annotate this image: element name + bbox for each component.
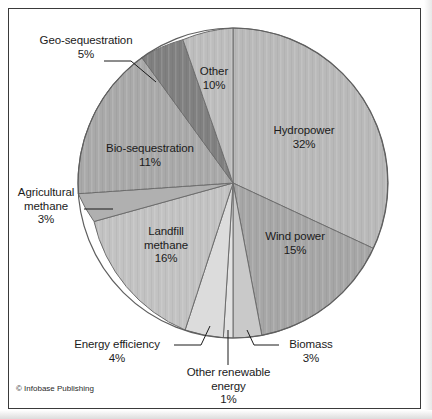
label-hydropower-name: Hydropower (274, 124, 335, 136)
label-agricultural-methane-pct: 3% (8, 213, 84, 227)
label-biomass-name: Biomass (289, 338, 332, 350)
label-bio-sequestration: Bio-sequestration 11% (94, 142, 206, 169)
label-wind-power: Wind power 15% (254, 230, 336, 257)
label-landfill-methane-pct: 16% (127, 252, 205, 266)
label-agricultural-methane: Agricultural methane 3% (8, 186, 84, 227)
label-other: Other 10% (186, 65, 242, 92)
label-agricultural-methane-name-line1: Agricultural (18, 186, 74, 198)
label-other-renewable-energy-name-line1: Other renewable (187, 366, 271, 378)
figure-page: Geo-sequestration 5% Bio-sequestration 1… (0, 0, 432, 419)
page-edge-shade-right (424, 0, 432, 419)
label-geo-sequestration-pct: 5% (26, 48, 146, 62)
label-other-renewable-energy-pct: 1% (172, 393, 285, 407)
label-other-renewable-energy-name-line2: energy (172, 380, 285, 394)
label-geo-sequestration: Geo-sequestration 5% (26, 34, 146, 61)
label-other-renewable-energy: Other renewable energy 1% (172, 366, 285, 407)
label-bio-sequestration-name: Bio-sequestration (106, 142, 194, 154)
label-wind-power-pct: 15% (254, 244, 336, 258)
label-other-name: Other (200, 65, 228, 77)
label-biomass: Biomass 3% (280, 338, 342, 365)
label-hydropower-pct: 32% (261, 138, 347, 152)
label-landfill-methane: Landfill methane 16% (127, 225, 205, 266)
label-wind-power-name: Wind power (265, 230, 325, 242)
label-energy-efficiency: Energy efficiency 4% (60, 338, 174, 365)
label-landfill-methane-name-line2: methane (127, 239, 205, 253)
label-landfill-methane-name-line1: Landfill (148, 225, 184, 237)
page-edge-shade-bottom (0, 410, 432, 419)
label-agricultural-methane-name-line2: methane (8, 200, 84, 214)
label-bio-sequestration-pct: 11% (94, 156, 206, 170)
label-energy-efficiency-name: Energy efficiency (74, 338, 160, 350)
label-hydropower: Hydropower 32% (261, 124, 347, 151)
label-geo-sequestration-name: Geo-sequestration (40, 34, 133, 46)
label-other-pct: 10% (186, 79, 242, 93)
publisher-credit: © Infobase Publishing (16, 384, 94, 393)
label-biomass-pct: 3% (280, 352, 342, 366)
label-energy-efficiency-pct: 4% (60, 352, 174, 366)
